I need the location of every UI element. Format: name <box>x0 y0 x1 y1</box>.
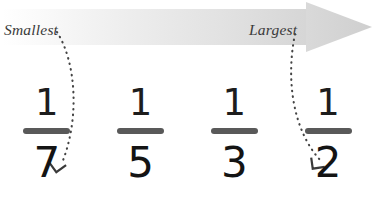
largest-label: Largest <box>249 21 297 39</box>
denominator: 7 <box>25 137 70 189</box>
fraction-bar <box>23 128 70 134</box>
smallest-label: Smallest <box>4 21 58 39</box>
numerator: 1 <box>129 80 153 124</box>
denominator: 5 <box>118 137 163 189</box>
fraction-item: 1 5 <box>103 80 179 198</box>
fraction-bar <box>211 128 258 134</box>
numerator: 1 <box>223 80 247 124</box>
fraction-bar <box>305 128 352 134</box>
fraction-item: 1 2 <box>290 80 366 198</box>
numerator: 1 <box>35 80 59 124</box>
arrow-head <box>306 2 372 52</box>
fraction-list: 1 7 1 5 1 3 1 2 <box>0 80 375 202</box>
fraction-bar <box>117 128 164 134</box>
fraction-item: 1 7 <box>9 80 85 198</box>
numerator: 1 <box>316 80 340 124</box>
denominator: 3 <box>212 137 257 189</box>
fraction-ordering-diagram: Smallest Largest 1 7 1 5 1 3 1 2 <box>0 0 375 202</box>
fraction-item: 1 3 <box>196 80 272 198</box>
denominator: 2 <box>306 137 351 189</box>
